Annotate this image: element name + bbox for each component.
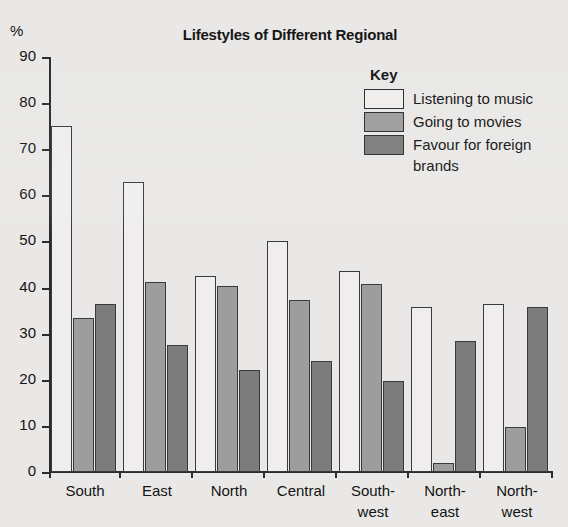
bar-north-west-series-2 <box>527 307 548 472</box>
bar-north-west-series-1 <box>505 427 526 472</box>
x-label-line2: west <box>337 501 409 522</box>
y-tick-60: 60 <box>42 195 49 197</box>
y-tick-label-10: 10 <box>19 416 36 433</box>
x-label-line2: west <box>481 501 553 522</box>
bar-south-west-series-0 <box>339 271 360 472</box>
x-label-line1: East <box>142 482 172 499</box>
bar-north-west-series-0 <box>483 304 504 472</box>
x-axis-label-east: East <box>121 480 193 501</box>
y-tick-90: 90 <box>42 57 49 59</box>
bar-south-series-0 <box>51 126 72 472</box>
bar-north-series-2 <box>239 370 260 472</box>
x-axis-label-central: Central <box>265 480 337 501</box>
x-label-line1: Central <box>277 482 325 499</box>
y-axis-unit-label: % <box>10 22 23 39</box>
bar-central-series-0 <box>267 241 288 472</box>
legend-swatch-1 <box>364 112 404 132</box>
legend-title: Key <box>370 66 564 83</box>
y-tick-0: 0 <box>42 472 49 474</box>
chart-legend: Key Listening to musicGoing to moviesFav… <box>364 66 564 178</box>
y-tick-50: 50 <box>42 241 49 243</box>
x-tick-3 <box>335 471 337 478</box>
x-axis-label-south-west: South-west <box>337 480 409 522</box>
y-tick-30: 30 <box>42 334 49 336</box>
y-tick-label-60: 60 <box>19 185 36 202</box>
x-axis-label-north-east: North-east <box>409 480 481 522</box>
legend-entry-1: Going to movies <box>364 111 564 132</box>
x-axis-label-north-west: North-west <box>481 480 553 522</box>
y-tick-40: 40 <box>42 288 49 290</box>
y-tick-label-0: 0 <box>28 462 36 479</box>
bar-north-east-series-2 <box>455 341 476 472</box>
bar-central-series-2 <box>311 361 332 472</box>
bar-north-series-0 <box>195 276 216 472</box>
bar-south-west-series-2 <box>383 381 404 472</box>
x-tick-6 <box>551 471 553 478</box>
x-label-line1: North- <box>496 482 538 499</box>
x-label-line2: east <box>409 501 481 522</box>
y-tick-80: 80 <box>42 103 49 105</box>
x-tick-2 <box>263 471 265 478</box>
y-tick-label-40: 40 <box>19 278 36 295</box>
x-label-line1: North <box>211 482 248 499</box>
y-tick-label-80: 80 <box>19 93 36 110</box>
bar-chart: % Lifestyles of Different Regional 01020… <box>0 0 568 527</box>
bar-east-series-2 <box>167 345 188 472</box>
x-tick-origin <box>49 471 51 478</box>
bar-east-series-1 <box>145 282 166 472</box>
chart-title: Lifestyles of Different Regional <box>140 26 440 43</box>
bar-central-series-1 <box>289 300 310 472</box>
legend-swatch-2 <box>364 135 404 155</box>
y-tick-label-70: 70 <box>19 139 36 156</box>
bar-south-series-1 <box>73 318 94 472</box>
x-label-line1: North- <box>424 482 466 499</box>
bar-north-east-series-1 <box>433 463 454 472</box>
legend-label-2: Favour for foreign brands <box>413 134 563 176</box>
legend-label-0: Listening to music <box>413 88 533 109</box>
y-tick-10: 10 <box>42 426 49 428</box>
legend-entries: Listening to musicGoing to moviesFavour … <box>364 88 564 176</box>
y-tick-label-20: 20 <box>19 370 36 387</box>
x-axis-labels: SouthEastNorthCentralSouth-westNorth-eas… <box>49 480 553 527</box>
y-tick-20: 20 <box>42 380 49 382</box>
bar-east-series-0 <box>123 182 144 473</box>
bar-south-west-series-1 <box>361 284 382 472</box>
x-label-line1: South- <box>351 482 395 499</box>
legend-entry-0: Listening to music <box>364 88 564 109</box>
x-label-line1: South <box>65 482 104 499</box>
legend-label-1: Going to movies <box>413 111 521 132</box>
x-tick-4 <box>407 471 409 478</box>
y-tick-label-30: 30 <box>19 324 36 341</box>
y-tick-70: 70 <box>42 149 49 151</box>
y-tick-label-90: 90 <box>19 47 36 64</box>
bar-south-series-2 <box>95 304 116 472</box>
legend-entry-2: Favour for foreign brands <box>364 134 564 176</box>
x-axis-label-north: North <box>193 480 265 501</box>
y-tick-label-50: 50 <box>19 231 36 248</box>
x-axis-label-south: South <box>49 480 121 501</box>
x-tick-1 <box>191 471 193 478</box>
x-tick-5 <box>479 471 481 478</box>
bar-north-series-1 <box>217 286 238 472</box>
bar-north-east-series-0 <box>411 307 432 472</box>
legend-swatch-0 <box>364 89 404 109</box>
x-tick-0 <box>119 471 121 478</box>
